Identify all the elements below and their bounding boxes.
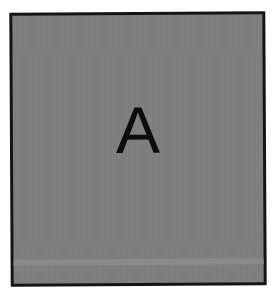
panel-letter: A <box>13 96 263 163</box>
canvas: A <box>0 0 277 294</box>
gray-panel: A <box>9 11 266 286</box>
panel-light-band <box>14 258 264 265</box>
